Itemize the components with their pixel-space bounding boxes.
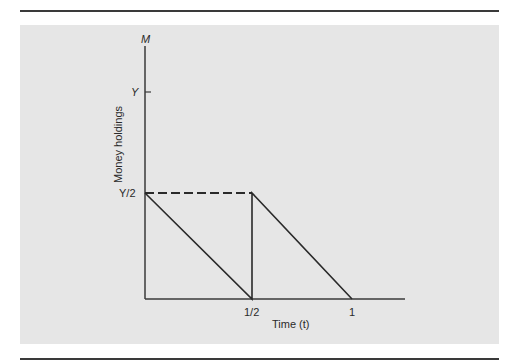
m-axis-label: M bbox=[141, 33, 151, 45]
money-holdings-line bbox=[145, 193, 352, 299]
x-axis-title: Time (t) bbox=[272, 318, 309, 330]
t-one-tick-label: 1 bbox=[349, 306, 355, 318]
y-tick-label: Y bbox=[131, 86, 139, 98]
y-half-tick-label: Y/2 bbox=[119, 187, 136, 199]
t-half-tick-label: 1/2 bbox=[244, 306, 259, 318]
y-axis-title: Money holdings bbox=[112, 105, 124, 183]
money-holdings-chart: M Y Y/2 1/2 1 Time (t) Money holdings bbox=[0, 0, 522, 362]
